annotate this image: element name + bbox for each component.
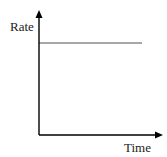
rate-time-chart: Rate Time	[0, 0, 167, 157]
x-axis-label: Time	[124, 141, 151, 154]
y-axis-arrow-icon	[36, 10, 43, 18]
y-axis-label: Rate	[10, 20, 34, 33]
x-axis-arrow-icon	[155, 132, 163, 139]
